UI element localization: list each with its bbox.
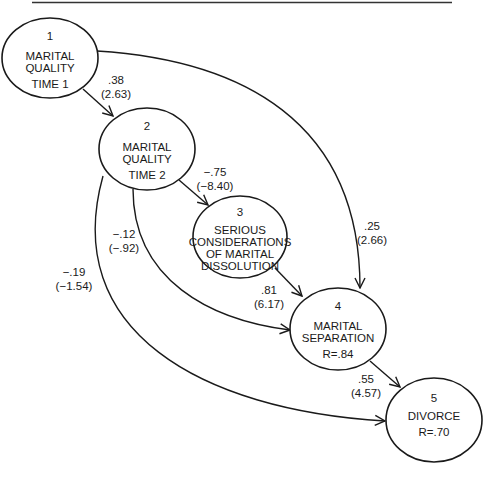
edge-label-3-4: .81 (6.17) [254, 284, 284, 310]
svg-text:QUALITY: QUALITY [25, 62, 75, 74]
svg-text:(−.92): (−.92) [109, 242, 140, 254]
svg-text:3: 3 [237, 206, 243, 218]
svg-text:R=.84: R=.84 [322, 348, 354, 360]
path-diagram: .38 (2.63) −.75 (−8.40) .25 (2.66) −.12 … [0, 0, 495, 480]
svg-text:−.75: −.75 [204, 166, 227, 178]
svg-text:SEPARATION: SEPARATION [302, 332, 374, 344]
svg-text:CONSIDERATIONS: CONSIDERATIONS [189, 236, 292, 248]
svg-text:1: 1 [47, 30, 53, 42]
svg-text:SERIOUS: SERIOUS [214, 224, 266, 236]
svg-text:−.19: −.19 [63, 266, 86, 278]
svg-text:DIVORCE: DIVORCE [408, 410, 461, 422]
edge-3-to-4 [275, 268, 302, 296]
svg-text:(2.63): (2.63) [101, 88, 131, 100]
svg-text:−.12: −.12 [113, 228, 136, 240]
svg-text:4: 4 [335, 300, 342, 312]
svg-text:.55: .55 [358, 373, 374, 385]
svg-text:TIME 1: TIME 1 [31, 78, 68, 90]
node-1-marital-quality-time1: 1 MARITAL QUALITY TIME 1 [2, 18, 98, 98]
node-4-marital-separation: 4 MARITAL SEPARATION R=.84 [290, 288, 386, 370]
edge-label-1-4: .25 (2.66) [357, 220, 387, 246]
node-2-marital-quality-time2: 2 MARITAL QUALITY TIME 2 [99, 108, 195, 190]
svg-text:.38: .38 [108, 74, 124, 86]
svg-text:.25: .25 [364, 220, 380, 232]
svg-text:(−8.40): (−8.40) [197, 180, 234, 192]
svg-text:MARITAL: MARITAL [26, 50, 76, 62]
edge-label-2-4: −.12 (−.92) [109, 228, 140, 254]
edge-label-2-5: −.19 (−1.54) [56, 266, 93, 292]
svg-text:5: 5 [431, 392, 437, 404]
node-5-divorce: 5 DIVORCE R=.70 [386, 378, 482, 462]
svg-text:(−1.54): (−1.54) [56, 280, 93, 292]
svg-text:(2.66): (2.66) [357, 234, 387, 246]
svg-text:2: 2 [144, 120, 150, 132]
svg-text:DISSOLUTION: DISSOLUTION [201, 260, 279, 272]
svg-text:TIME 2: TIME 2 [128, 169, 165, 181]
edge-4-to-5 [370, 361, 400, 387]
edge-label-2-3: −.75 (−8.40) [197, 166, 234, 192]
svg-text:OF MARITAL: OF MARITAL [206, 248, 275, 260]
edge-label-4-5: .55 (4.57) [351, 373, 381, 399]
svg-text:QUALITY: QUALITY [122, 153, 172, 165]
edge-label-1-2: .38 (2.63) [101, 74, 131, 100]
svg-text:MARITAL: MARITAL [314, 320, 364, 332]
svg-text:R=.70: R=.70 [418, 426, 449, 438]
svg-text:.81: .81 [261, 284, 277, 296]
svg-text:(6.17): (6.17) [254, 298, 284, 310]
svg-text:MARITAL: MARITAL [123, 141, 173, 153]
node-3-serious-considerations: 3 SERIOUS CONSIDERATIONS OF MARITAL DISS… [189, 196, 292, 278]
svg-text:(4.57): (4.57) [351, 387, 381, 399]
